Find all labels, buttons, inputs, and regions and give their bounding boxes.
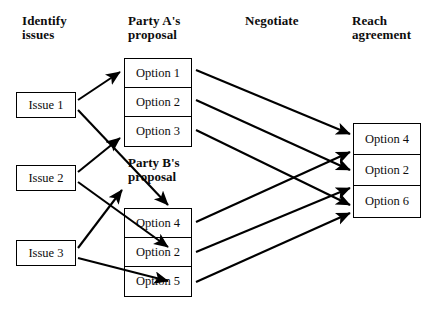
party-b-option-stack: Option 4 Option 2 Option 5 bbox=[124, 208, 192, 297]
option-cell: Option 5 bbox=[125, 267, 191, 296]
arrow-partyb-option5-to-agreement-option6 bbox=[196, 213, 350, 282]
option-label: Option 2 bbox=[136, 95, 180, 110]
party-a-option-stack: Option 1 Option 2 Option 3 bbox=[124, 58, 192, 147]
option-label: Option 4 bbox=[136, 216, 180, 231]
issue-box-2: Issue 2 bbox=[16, 165, 76, 191]
option-label: Option 5 bbox=[136, 274, 180, 289]
arrow-issue3-to-partya-option3 bbox=[78, 190, 122, 248]
arrow-issue1-to-option1 bbox=[78, 72, 120, 100]
arrow-partyb-option2-to-agreement-option2 bbox=[196, 188, 350, 252]
arrow-partya-option1-to-agreement-option4 bbox=[196, 70, 350, 134]
option-label: Option 3 bbox=[136, 124, 180, 139]
column-heading-reach-agreement: Reach agreement bbox=[352, 14, 411, 42]
option-label: Option 6 bbox=[365, 194, 409, 209]
option-cell: Option 2 bbox=[125, 88, 191, 117]
option-label: Option 2 bbox=[365, 163, 409, 178]
arrow-partya-option3-to-agreement-option6 bbox=[196, 130, 350, 205]
column-heading-identify-issues: Identify issues bbox=[22, 14, 67, 42]
option-label: Option 2 bbox=[136, 245, 180, 260]
option-cell: Option 4 bbox=[354, 124, 420, 155]
arrow-group-proposals-to-agreement bbox=[196, 70, 350, 282]
option-cell: Option 1 bbox=[125, 59, 191, 88]
option-cell: Option 2 bbox=[354, 155, 420, 186]
arrow-issue2-to-partya-option3 bbox=[78, 138, 120, 172]
column-heading-negotiate: Negotiate bbox=[245, 14, 299, 28]
issue-box-label: Issue 2 bbox=[28, 171, 63, 186]
option-cell: Option 4 bbox=[125, 209, 191, 238]
option-cell: Option 3 bbox=[125, 117, 191, 146]
column-heading-party-a-proposal: Party A's proposal bbox=[128, 14, 181, 42]
arrow-partyb-option4-to-agreement-option4 bbox=[196, 152, 350, 222]
arrow-partya-option2-to-agreement-option2 bbox=[196, 100, 350, 170]
issue-box-3: Issue 3 bbox=[16, 240, 76, 266]
option-label: Option 1 bbox=[136, 66, 180, 81]
option-cell: Option 6 bbox=[354, 186, 420, 217]
option-label: Option 4 bbox=[365, 132, 409, 147]
issue-box-1: Issue 1 bbox=[16, 92, 76, 118]
issue-box-label: Issue 3 bbox=[28, 246, 63, 261]
agreement-option-stack: Option 4 Option 2 Option 6 bbox=[353, 123, 421, 218]
negotiation-flow-diagram: Identify issues Party A's proposal Negot… bbox=[0, 0, 440, 322]
issue-box-label: Issue 1 bbox=[28, 98, 63, 113]
option-cell: Option 2 bbox=[125, 238, 191, 267]
column-heading-party-b-proposal: Party B's proposal bbox=[128, 156, 180, 184]
